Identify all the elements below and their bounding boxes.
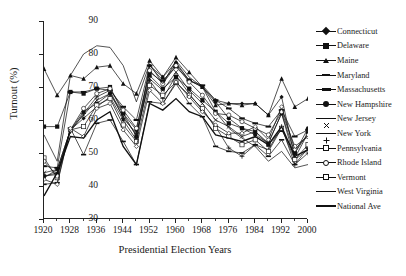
legend-item-maryland[interactable]: Maryland (316, 68, 406, 83)
legend-label: Connecticut (336, 27, 377, 36)
x-tick-mark-minor (83, 219, 84, 221)
turnout-line-chart-figure: Turnout (%) 90807060504030 1920192819361… (0, 0, 406, 276)
x-tick-mark-major (69, 219, 70, 223)
x-tick-mark-minor (215, 219, 216, 221)
legend-marker-icon (316, 172, 336, 182)
x-tick-mark-major (43, 219, 44, 223)
x-tick-mark-major (228, 219, 229, 223)
legend-label: National Ave (336, 202, 381, 211)
legend-label: Massachusetts (336, 85, 385, 94)
legend-item-pennsylvania[interactable]: Pennsylvania (316, 141, 406, 156)
legend-label: New Hampshire (336, 100, 392, 109)
legend-marker-icon (316, 187, 336, 197)
x-tick-mark-minor (267, 219, 268, 221)
legend-marker-icon (316, 85, 336, 95)
x-tick-mark-minor (162, 219, 163, 221)
legend-item-rhode-island[interactable]: Rhode Island (316, 155, 406, 170)
legend-item-new-jersey[interactable]: New Jersey (316, 112, 406, 127)
legend-item-west-virginia[interactable]: West Virginia (316, 185, 406, 200)
legend-label: Pennsylvania (336, 144, 382, 153)
legend-marker-icon (316, 26, 336, 36)
legend-item-new-york[interactable]: New York (316, 126, 406, 141)
x-tick-mark-minor (241, 219, 242, 221)
legend-marker-icon (316, 55, 336, 65)
legend: ConnecticutDelawareMaineMarylandMassachu… (316, 24, 406, 214)
x-tick-mark-minor (109, 219, 110, 221)
x-tick-mark-minor (294, 219, 295, 221)
legend-label: Maryland (336, 71, 370, 80)
series-line (44, 82, 308, 178)
legend-label: Rhode Island (336, 158, 381, 167)
legend-marker-icon (316, 41, 336, 51)
legend-item-delaware[interactable]: Delaware (316, 39, 406, 54)
series-line (44, 72, 308, 173)
legend-marker-icon (316, 143, 336, 153)
legend-label: New Jersey (336, 114, 376, 123)
legend-item-vermont[interactable]: Vermont (316, 170, 406, 185)
legend-item-national-ave[interactable]: National Ave (316, 199, 406, 214)
legend-marker-icon (316, 201, 336, 211)
legend-marker-icon (316, 70, 336, 80)
legend-item-new-hampshire[interactable]: New Hampshire (316, 97, 406, 112)
x-tick-mark-major (201, 219, 202, 223)
series-canvas (44, 21, 308, 219)
x-tick-mark-major (307, 219, 308, 223)
legend-item-massachusetts[interactable]: Massachusetts (316, 82, 406, 97)
x-tick-mark-minor (188, 219, 189, 221)
legend-item-maine[interactable]: Maine (316, 53, 406, 68)
series-new-jersey (44, 70, 308, 175)
x-tick-mark-minor (56, 219, 57, 221)
plot-area (43, 21, 307, 219)
x-tick-mark-major (149, 219, 150, 223)
legend-marker-icon (316, 99, 336, 109)
legend-marker-icon (316, 128, 336, 138)
legend-label: New York (336, 129, 371, 138)
legend-label: Vermont (336, 173, 366, 182)
legend-label: West Virginia (336, 187, 383, 196)
x-tick-mark-major (122, 219, 123, 223)
x-tick-mark-major (254, 219, 255, 223)
x-tick-mark-major (96, 219, 97, 223)
x-axis-title: Presidential Election Years (43, 244, 307, 255)
legend-label: Maine (336, 56, 358, 65)
legend-marker-icon (316, 158, 336, 168)
x-tick-mark-major (281, 219, 282, 223)
legend-marker-icon (316, 114, 336, 124)
x-tick-label: 2000 (287, 225, 327, 235)
legend-item-connecticut[interactable]: Connecticut (316, 24, 406, 39)
y-axis-title: Turnout (%) (8, 39, 19, 149)
x-tick-mark-major (175, 219, 176, 223)
x-tick-mark-minor (135, 219, 136, 221)
legend-label: Delaware (336, 41, 369, 50)
